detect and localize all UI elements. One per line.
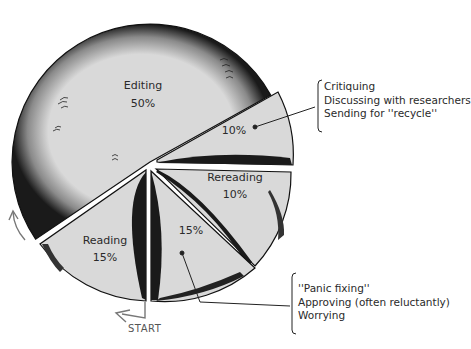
note-panic-fixing: ''Panic fixing'' Approving (often reluct… (298, 282, 450, 323)
start-label: START (128, 323, 161, 334)
label-reading-pct: 15% (75, 251, 135, 265)
label-reading-name: Reading (75, 234, 135, 248)
label-editing-name: Editing (108, 79, 178, 93)
critiquing-brace (318, 80, 322, 132)
note-critiquing-line: Discussing with researchers (324, 94, 471, 108)
label-panic-pct: 15% (171, 224, 211, 238)
start-arrow-icon (116, 302, 145, 322)
label-editing-pct: 50% (108, 97, 178, 111)
note-critiquing-line: Critiquing (324, 80, 471, 94)
note-panic-line: Worrying (298, 309, 450, 323)
label-rereading-name: Rereading (200, 171, 270, 185)
note-critiquing-line: Sending for ''recycle'' (324, 107, 471, 121)
label-rereading-pct: 10% (200, 188, 270, 202)
note-panic-line: Approving (often reluctantly) (298, 296, 450, 310)
note-panic-line: ''Panic fixing'' (298, 282, 450, 296)
label-critiquing-pct: 10% (214, 124, 254, 138)
note-critiquing: Critiquing Discussing with researchers S… (324, 80, 471, 121)
panic-brace (292, 273, 296, 334)
